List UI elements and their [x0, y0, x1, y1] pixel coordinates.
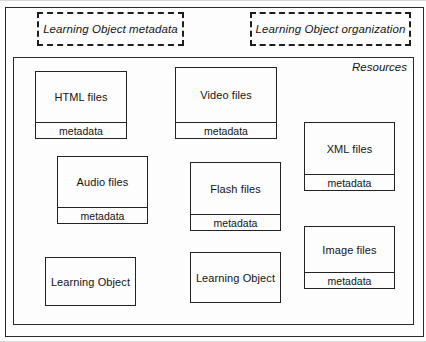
- node-label: Audio files: [77, 176, 129, 188]
- node-audio-files: Audio files metadata: [57, 156, 148, 224]
- node-video-files: Video files metadata: [175, 67, 277, 139]
- resources-label: Resources: [352, 61, 407, 73]
- node-main: XML files: [304, 122, 395, 175]
- node-learning-object-left: Learning Object: [45, 257, 136, 306]
- node-metadata-strip: metadata: [304, 273, 395, 289]
- node-html-files: HTML files metadata: [35, 71, 127, 139]
- node-label: HTML files: [54, 91, 107, 103]
- node-label: Learning Object: [196, 272, 275, 284]
- concept-box-learning-object-metadata: Learning Object metadata: [37, 12, 184, 46]
- diagram-canvas: Learning Object metadata Learning Object…: [0, 0, 426, 342]
- node-flash-files: Flash files metadata: [190, 162, 281, 231]
- node-metadata-label: metadata: [204, 125, 248, 137]
- node-metadata-label: metadata: [59, 125, 103, 137]
- node-learning-object-center: Learning Object: [190, 252, 281, 303]
- node-metadata-label: metadata: [328, 275, 372, 287]
- node-main: Flash files: [190, 162, 281, 215]
- node-main: HTML files: [35, 71, 127, 123]
- node-label: Video files: [200, 89, 252, 101]
- scan-edge-top: [0, 0, 426, 1]
- concept-box-learning-object-organization: Learning Object organization: [250, 12, 411, 46]
- node-main: Learning Object: [45, 257, 136, 306]
- node-image-files: Image files metadata: [304, 226, 395, 289]
- node-label: Image files: [322, 244, 376, 256]
- node-main: Learning Object: [190, 252, 281, 303]
- node-metadata-label: metadata: [214, 217, 258, 229]
- node-label: XML files: [327, 143, 373, 155]
- node-metadata-strip: metadata: [35, 123, 127, 139]
- resources-container: Resources HTML files metadata Video file…: [13, 57, 414, 325]
- node-main: Video files: [175, 67, 277, 123]
- node-label: Learning Object: [51, 276, 130, 288]
- node-main: Audio files: [57, 156, 148, 208]
- node-label: Flash files: [210, 183, 261, 195]
- concept-box-label: Learning Object metadata: [43, 23, 178, 35]
- node-main: Image files: [304, 226, 395, 273]
- concept-box-label: Learning Object organization: [256, 23, 406, 35]
- node-metadata-label: metadata: [328, 177, 372, 189]
- node-metadata-strip: metadata: [190, 215, 281, 231]
- node-xml-files: XML files metadata: [304, 122, 395, 191]
- node-metadata-strip: metadata: [57, 208, 148, 224]
- node-metadata-strip: metadata: [175, 123, 277, 139]
- node-metadata-label: metadata: [81, 210, 125, 222]
- node-metadata-strip: metadata: [304, 175, 395, 191]
